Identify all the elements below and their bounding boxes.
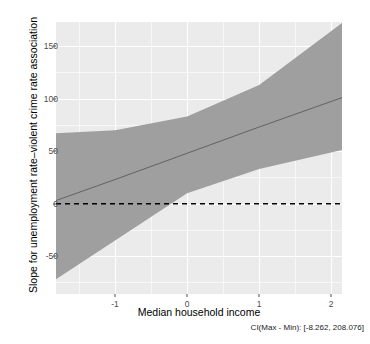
x-tick-mark bbox=[259, 294, 260, 297]
plot-geometry bbox=[56, 22, 342, 294]
x-tick-mark bbox=[115, 294, 116, 297]
y-tick-mark bbox=[53, 46, 56, 47]
y-axis-title: Slope for unemployment rate–violent crim… bbox=[22, 10, 44, 300]
y-tick-mark bbox=[53, 203, 56, 204]
y-tick-mark bbox=[53, 151, 56, 152]
y-tick-mark bbox=[53, 98, 56, 99]
chart-figure: Slope for unemployment rate–violent crim… bbox=[0, 0, 370, 344]
ci-caption: CI(Max - Min): [-8.262, 208.076] bbox=[251, 323, 364, 332]
confidence-ribbon bbox=[56, 23, 342, 279]
y-tick-mark bbox=[53, 256, 56, 257]
x-tick-mark bbox=[331, 294, 332, 297]
x-tick-mark bbox=[187, 294, 188, 297]
x-axis-title: Median household income bbox=[56, 306, 342, 318]
y-tick-label: -50 bbox=[46, 251, 58, 261]
plot-panel bbox=[56, 22, 342, 294]
